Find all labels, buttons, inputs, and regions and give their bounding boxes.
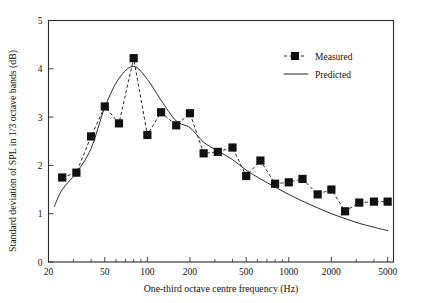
y-tick-label-1: 1 <box>38 209 43 219</box>
data-point-marker <box>298 175 306 183</box>
y-tick-label-5: 5 <box>38 16 43 26</box>
standard-deviation-spl-chart: Standard deviation of SPL in 1/3 octave … <box>0 0 424 303</box>
y-axis-title: Standard deviation of SPL in 1/3 octave … <box>7 50 19 252</box>
y-axis-title-label: Standard deviation of SPL in 1/3 octave … <box>7 50 19 252</box>
measured-series-line <box>62 58 387 211</box>
y-tick-label-0: 0 <box>38 258 43 268</box>
legend-label-measured: Measured <box>315 52 353 62</box>
data-point-marker <box>271 180 279 188</box>
data-point-marker <box>115 119 123 127</box>
data-point-marker <box>341 207 349 215</box>
data-point-marker <box>87 132 95 140</box>
data-point-marker <box>370 198 378 206</box>
data-point-marker <box>157 108 165 116</box>
y-axis-ticks: 012345 <box>38 16 54 268</box>
data-point-marker <box>200 149 208 157</box>
data-point-marker <box>72 169 80 177</box>
y-tick-label-2: 2 <box>38 161 43 171</box>
y-tick-label-4: 4 <box>38 64 43 74</box>
data-point-marker <box>285 178 293 186</box>
y-tick-label-3: 3 <box>38 113 43 123</box>
data-point-marker <box>327 185 335 193</box>
data-point-marker <box>130 54 138 62</box>
x-axis-title: One-third octave centre frequency (Hz) <box>144 283 299 295</box>
data-point-marker <box>314 190 322 198</box>
x-tick-label-2000: 2000 <box>322 267 341 277</box>
figure-container: Standard deviation of SPL in 1/3 octave … <box>0 0 424 303</box>
data-point-marker <box>143 131 151 139</box>
data-point-marker <box>58 173 66 181</box>
data-point-marker <box>242 172 250 180</box>
data-point-marker <box>172 121 180 129</box>
x-tick-label-100: 100 <box>140 267 155 277</box>
data-point-marker <box>186 109 194 117</box>
x-tick-label-50: 50 <box>100 267 110 277</box>
x-tick-label-200: 200 <box>183 267 198 277</box>
x-tick-label-1000: 1000 <box>279 267 298 277</box>
x-axis-ticks: 2050100200500100020005000 <box>44 257 398 277</box>
legend-label-predicted: Predicted <box>315 70 351 80</box>
x-axis-title-label: One-third octave centre frequency (Hz) <box>144 283 299 295</box>
legend-measured-marker <box>291 52 299 60</box>
data-point-marker <box>384 198 392 206</box>
data-point-marker <box>101 102 109 110</box>
x-tick-label-500: 500 <box>239 267 254 277</box>
data-point-marker <box>256 156 264 164</box>
data-point-marker <box>355 198 363 206</box>
data-point-marker <box>228 143 236 151</box>
chart-legend: Measured Predicted <box>284 52 353 80</box>
x-tick-label-20: 20 <box>44 267 54 277</box>
x-tick-label-5000: 5000 <box>378 267 397 277</box>
data-point-marker <box>214 148 222 156</box>
